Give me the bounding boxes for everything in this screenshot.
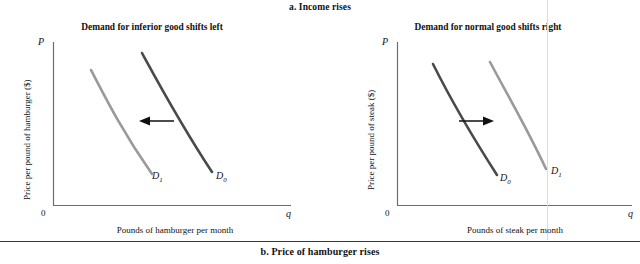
- curve-label-d1-sub: 1: [159, 176, 163, 184]
- panel-normal-good: Demand for normal good shifts right P q …: [320, 0, 640, 240]
- panel-inferior-good: Demand for inferior good shifts left P q…: [0, 0, 320, 240]
- y-axis-caption: Price per pound of hamburger ($): [22, 79, 32, 200]
- y-axis-caption: Price per pound of steak ($): [366, 90, 376, 190]
- curve-label-d1: D1: [551, 165, 562, 179]
- plot-area-inferior-good: [0, 0, 320, 240]
- figure-demand-shifts: a. Income rises Demand for inferior good…: [0, 0, 640, 264]
- origin-label: 0: [385, 208, 390, 218]
- shift-arrow-left: [139, 116, 174, 125]
- x-axis-caption: Pounds of hamburger per month: [50, 225, 300, 235]
- section-caption-b: b. Price of hamburger rises: [0, 246, 640, 257]
- curve-label-d1: D1: [152, 170, 163, 184]
- demand-curve-d1: [490, 62, 546, 169]
- curve-label-d1-sub: 1: [558, 171, 562, 179]
- page-bleed-line: [547, 0, 548, 240]
- curve-label-d0: D0: [500, 172, 511, 186]
- curve-label-d0-sub: 0: [507, 178, 511, 186]
- shift-arrow-right: [459, 116, 494, 125]
- x-axis-letter: q: [286, 208, 291, 219]
- section-divider: [0, 241, 640, 242]
- curve-label-d0: D0: [216, 170, 227, 184]
- curve-label-d0-sub: 0: [223, 176, 227, 184]
- y-axis-letter: P: [382, 36, 388, 47]
- x-axis-caption: Pounds of steak per month: [395, 225, 635, 235]
- demand-curve-d0: [142, 53, 212, 172]
- origin-label: 0: [41, 208, 46, 218]
- y-axis-letter: P: [38, 36, 44, 47]
- x-axis-letter: q: [628, 208, 633, 219]
